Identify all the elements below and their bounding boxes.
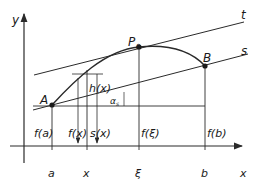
tick-xi: ξ	[134, 167, 142, 180]
tangent-label: t	[241, 8, 247, 22]
point-p0-subscript: 0	[136, 43, 141, 51]
tick-x: x	[82, 167, 90, 180]
y-axis-label: y	[11, 13, 20, 27]
fb-label: f(b)	[207, 127, 226, 140]
point-a-label: A	[39, 93, 48, 107]
secant-line-s	[33, 54, 248, 110]
fxi-label: f(ξ)	[141, 127, 160, 140]
hx-label: h(x)	[89, 82, 111, 95]
alpha-subscript: s	[116, 100, 119, 107]
mean-value-diagram: y x A P 0 B t s h(x) α s f(a) f(x) s(x) …	[0, 0, 259, 189]
point-b-label: B	[203, 51, 211, 65]
point-p0-label: P	[128, 35, 136, 49]
function-curve	[52, 46, 205, 105]
sx-label: s(x)	[90, 127, 111, 140]
fx-label: f(x)	[68, 127, 87, 140]
x-axis-label: x	[239, 167, 247, 180]
fa-label: f(a)	[34, 127, 53, 140]
tick-b: b	[201, 167, 208, 180]
tick-a: a	[48, 167, 55, 180]
secant-label: s	[241, 44, 247, 58]
point-a	[49, 102, 54, 107]
